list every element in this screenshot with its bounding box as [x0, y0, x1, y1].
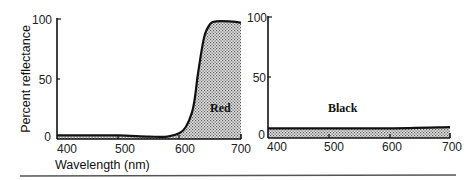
- x-tick-label-500: 500: [115, 142, 135, 156]
- x-tick-label-500: 500: [324, 140, 344, 154]
- y-tick-label-50: 50: [39, 73, 53, 87]
- x-tick-label-600: 600: [175, 142, 195, 156]
- y-tick-label-100: 100: [32, 13, 52, 27]
- x-tick-label-700: 700: [442, 140, 462, 154]
- series-label-black: Black: [328, 101, 358, 115]
- series-label-red: Red: [210, 101, 231, 115]
- x-axis-title: Wavelength (nm): [55, 158, 150, 172]
- x-tick-label-400: 400: [267, 140, 287, 154]
- y-tick-label-50: 50: [253, 71, 267, 85]
- black-reflectance-chart: 100 50 0 400 500 600 700 Black: [247, 11, 462, 154]
- y-tick-label-0: 0: [44, 130, 51, 144]
- black-curve: [268, 127, 450, 128]
- red-reflectance-chart: 100 50 0 400 500 600 700 Wavelength (nm)…: [19, 13, 251, 172]
- x-tick-label-700: 700: [231, 142, 251, 156]
- bottom-rule: [20, 175, 456, 176]
- y-tick-label-100: 100: [247, 11, 267, 25]
- y-tick-label-0: 0: [258, 128, 265, 142]
- red-area-fill: [57, 21, 241, 139]
- x-tick-label-400: 400: [57, 142, 77, 156]
- x-tick-label-600: 600: [382, 140, 402, 154]
- reflectance-figure: 100 50 0 400 500 600 700 Wavelength (nm)…: [0, 0, 474, 180]
- y-axis-title: Percent reflectance: [19, 25, 33, 133]
